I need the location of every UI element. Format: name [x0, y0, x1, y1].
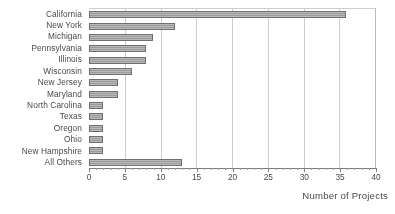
category-label: New Hampshire	[0, 145, 86, 156]
category-label: New Jersey	[0, 77, 86, 88]
x-tick-minor	[154, 168, 155, 170]
x-tick-minor	[211, 168, 212, 170]
x-tick-minor	[283, 168, 284, 170]
x-tick-label: 10	[156, 173, 165, 181]
category-label: Pennsylvania	[0, 42, 86, 53]
bar-chart: CaliforniaNew YorkMichiganPennsylvaniaIl…	[0, 0, 395, 214]
category-label: All Others	[0, 156, 86, 167]
bar-series	[89, 9, 375, 168]
category-label: Maryland	[0, 88, 86, 99]
x-tick-minor	[225, 168, 226, 170]
bar	[89, 79, 118, 86]
bar	[89, 23, 175, 30]
bar-row	[89, 145, 375, 156]
category-label: Wisconsin	[0, 65, 86, 76]
x-tick-minor	[347, 168, 348, 170]
category-label: Michigan	[0, 31, 86, 42]
x-tick-minor	[333, 168, 334, 170]
x-tick-minor	[103, 168, 104, 170]
bar-row	[89, 77, 375, 88]
x-tick-minor	[326, 168, 327, 170]
bar-row	[89, 20, 375, 31]
bar-row	[89, 9, 375, 20]
x-tick-minor	[204, 168, 205, 170]
bar-row	[89, 43, 375, 54]
x-tick-minor	[168, 168, 169, 170]
bar-row	[89, 32, 375, 43]
bar	[89, 45, 146, 52]
x-tick-label: 40	[371, 173, 380, 181]
x-tick-minor	[297, 168, 298, 170]
bar-row	[89, 100, 375, 111]
x-tick-minor	[254, 168, 255, 170]
x-tick-minor	[261, 168, 262, 170]
category-label: North Carolina	[0, 99, 86, 110]
bar-row	[89, 157, 375, 168]
x-tick-minor	[240, 168, 241, 170]
x-tick-minor	[182, 168, 183, 170]
x-tick-minor	[218, 168, 219, 170]
bar-row	[89, 66, 375, 77]
x-tick-label: 30	[300, 173, 309, 181]
bar-row	[89, 54, 375, 65]
category-label: New York	[0, 19, 86, 30]
x-tick-label: 0	[87, 173, 92, 181]
category-label: Oregon	[0, 122, 86, 133]
category-label: Texas	[0, 111, 86, 122]
category-label: Ohio	[0, 134, 86, 145]
bar-row	[89, 111, 375, 122]
bar	[89, 159, 182, 166]
category-label: Illinois	[0, 54, 86, 65]
bar	[89, 34, 153, 41]
x-tick-label: 35	[336, 173, 345, 181]
x-axis-title: Number of Projects	[0, 190, 388, 201]
x-tick-minor	[290, 168, 291, 170]
x-tick-minor	[362, 168, 363, 170]
x-tick-minor	[189, 168, 190, 170]
x-tick-minor	[319, 168, 320, 170]
bar-row	[89, 134, 375, 145]
x-tick-label: 20	[228, 173, 237, 181]
x-tick-minor	[96, 168, 97, 170]
x-tick-minor	[111, 168, 112, 170]
bar	[89, 125, 103, 132]
x-tick-minor	[146, 168, 147, 170]
bar	[89, 11, 346, 18]
x-tick-minor	[276, 168, 277, 170]
x-tick-label: 25	[264, 173, 273, 181]
category-axis-labels: CaliforniaNew YorkMichiganPennsylvaniaIl…	[0, 8, 86, 168]
bar-row	[89, 123, 375, 134]
x-tick-minor	[132, 168, 133, 170]
x-tick-minor	[139, 168, 140, 170]
x-tick-minor	[247, 168, 248, 170]
bar	[89, 68, 132, 75]
x-tick-label: 5	[123, 173, 128, 181]
plot-area	[89, 8, 376, 168]
x-tick-minor	[369, 168, 370, 170]
x-tick-label: 15	[192, 173, 201, 181]
x-tick-minor	[175, 168, 176, 170]
x-tick-minor	[311, 168, 312, 170]
x-tick-minor	[354, 168, 355, 170]
bar	[89, 147, 103, 154]
bar	[89, 113, 103, 120]
bar	[89, 91, 118, 98]
bar	[89, 57, 146, 64]
category-label: California	[0, 8, 86, 19]
bar-row	[89, 89, 375, 100]
bar	[89, 102, 103, 109]
x-axis-tick-labels: 0510152025303540	[89, 173, 376, 185]
bar	[89, 136, 103, 143]
x-tick-minor	[118, 168, 119, 170]
